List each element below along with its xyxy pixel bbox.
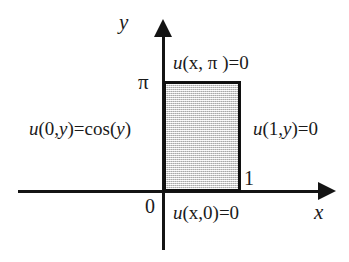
tick-label-pi: π — [138, 72, 149, 93]
x-axis-label: x — [314, 202, 323, 223]
bc-right-tail: )=0 — [292, 118, 319, 139]
x-axis-arrow-icon — [318, 182, 336, 200]
bc-left-tail: )=cos( — [68, 118, 117, 139]
y-axis-label: y — [119, 12, 128, 33]
bc-right-function: u — [253, 118, 263, 139]
boundary-condition-top: u(x, π )=0 — [173, 53, 249, 72]
bc-bottom-expression: (x,0)=0 — [183, 202, 240, 223]
bc-top-function: u — [173, 52, 183, 73]
y-axis-arrow-icon — [154, 19, 172, 37]
tick-label-one: 1 — [244, 168, 254, 188]
tick-label-origin: 0 — [145, 196, 155, 216]
boundary-value-diagram: y x π 0 1 u(x, π )=0 u(0,y)=cos(y) u(1,y… — [0, 0, 349, 262]
boundary-condition-bottom: u(x,0)=0 — [173, 203, 239, 222]
bc-left-close: ) — [125, 118, 131, 139]
bc-left-var: y — [59, 118, 67, 139]
boundary-condition-right: u(1,y)=0 — [253, 119, 318, 138]
domain-rectangle — [163, 81, 241, 192]
bc-left-args: (0, — [39, 118, 60, 139]
bc-left-var2: y — [116, 118, 124, 139]
bc-bottom-function: u — [173, 202, 183, 223]
boundary-condition-left: u(0,y)=cos(y) — [29, 119, 131, 138]
bc-right-args: (1, — [263, 118, 284, 139]
bc-left-function: u — [29, 118, 39, 139]
bc-top-expression: (x, π )=0 — [183, 52, 249, 73]
bc-right-var: y — [283, 118, 291, 139]
